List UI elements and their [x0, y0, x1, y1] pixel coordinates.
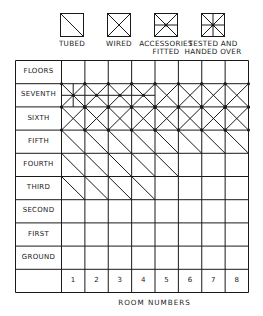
floor-label: FOURTH — [16, 160, 62, 168]
floor-label: FIFTH — [16, 137, 62, 145]
room-number-label: 7 — [202, 276, 225, 284]
floor-label: GROUND — [16, 253, 62, 261]
floor-label: THIRD — [16, 183, 62, 191]
room-number-label: 8 — [225, 276, 248, 284]
room-number-label: 4 — [132, 276, 155, 284]
axis-title: ROOM NUMBERS — [61, 298, 248, 307]
room-number-label: 1 — [62, 276, 85, 284]
floor-label: SIXTH — [16, 114, 62, 122]
room-number-label: 6 — [178, 276, 201, 284]
floor-label: FIRST — [16, 230, 62, 238]
floor-label: SECOND — [16, 206, 62, 214]
room-number-label: 5 — [155, 276, 178, 284]
floors-header: FLOORS — [16, 67, 62, 75]
room-number-label: 3 — [108, 276, 131, 284]
floor-label: SEVENTH — [16, 90, 62, 98]
progress-grid — [0, 0, 263, 316]
room-number-label: 2 — [85, 276, 108, 284]
